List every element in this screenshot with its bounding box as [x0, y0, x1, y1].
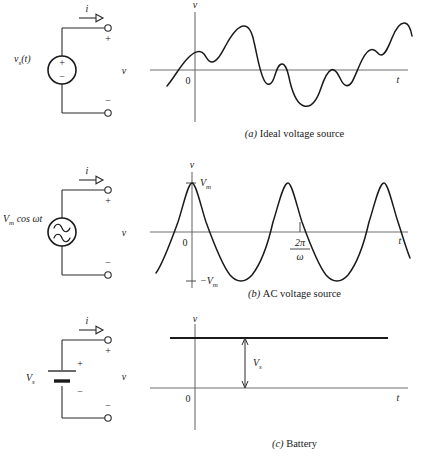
terminal-plus-sign: + [105, 195, 111, 206]
caption-c-index: (c) [272, 438, 284, 449]
terminal-plus-sign: + [105, 33, 111, 44]
caption-panel-b: (b) AC voltage source [150, 288, 439, 299]
terminal-bottom [105, 272, 111, 278]
caption-a-text: Ideal voltage source [260, 128, 345, 139]
source-label: vs(t) [14, 53, 31, 67]
terminal-minus-sign: − [105, 95, 111, 106]
caption-a-index: (a) [245, 128, 257, 139]
port-voltage-label: v [122, 371, 127, 382]
x-axis-label: t [397, 392, 400, 403]
caption-panel-a: (a) Ideal voltage source [150, 128, 439, 139]
terminal-plus-sign: + [105, 345, 111, 356]
source-label: Vs [26, 372, 35, 386]
current-label: i [86, 165, 89, 176]
current-arrow-head-icon [96, 326, 103, 334]
y-axis-label: v [193, 313, 198, 324]
source-label: Vm cos ωt [3, 213, 43, 227]
current-label: i [86, 315, 89, 326]
terminal-minus-sign: − [105, 400, 111, 411]
trough-label: −Vm [200, 275, 218, 289]
origin-label: 0 [183, 237, 188, 248]
period-numerator: 2π [295, 237, 306, 248]
source-label-sub: s [32, 378, 35, 386]
caption-panel-c: (c) Battery [150, 438, 439, 449]
dimension-label-sub: s [259, 363, 262, 371]
ac-source-circle-icon [48, 218, 76, 246]
terminal-top [105, 337, 111, 343]
caption-b-text: AC voltage source [263, 288, 341, 299]
panel-ac-voltage-source: i + − v Vm cos ωt v t 0 Vm −Vm [0, 160, 439, 310]
origin-label: 0 [186, 393, 191, 404]
source-label-arg: cos ωt [14, 213, 42, 224]
plot-ideal-voltage-waveform: v t 0 [150, 0, 439, 130]
terminal-minus-sign: − [105, 257, 111, 268]
y-axis-label: v [193, 0, 198, 10]
battery-plus-sign: + [77, 358, 83, 369]
port-voltage-label: v [122, 227, 127, 238]
panel-ideal-voltage-source: + − i + − v vs(t) [0, 0, 439, 150]
circuit-ideal-voltage-source: + − i + − v vs(t) [0, 0, 150, 130]
circuit-ac-voltage-source: i + − v Vm cos ωt [0, 160, 150, 290]
dimension-label: Vs [253, 357, 262, 371]
x-axis-label: t [397, 74, 400, 85]
plot-ac-voltage-waveform: v t 0 Vm −Vm 2π ω [150, 160, 439, 290]
source-label-arg: (t) [21, 53, 31, 65]
current-arrow-head-icon [96, 14, 103, 22]
terminal-bottom [105, 415, 111, 421]
waveform-arbitrary [167, 23, 412, 106]
plot-battery-waveform: v t 0 Vs [150, 318, 439, 448]
y-axis-label: v [190, 159, 195, 170]
source-minus-sign: − [59, 71, 65, 82]
current-arrow-head-icon [96, 176, 103, 184]
source-plus-sign: + [59, 57, 65, 68]
battery-minus-sign: − [77, 386, 83, 397]
period-denominator: ω [296, 251, 303, 262]
origin-label: 0 [186, 75, 191, 86]
port-voltage-label: v [122, 65, 127, 76]
panel-battery: + − i + − v Vs v t 0 [0, 318, 439, 467]
terminal-top [105, 187, 111, 193]
caption-c-text: Battery [286, 438, 317, 449]
x-axis-label: t [399, 235, 402, 246]
peak-label: Vm [200, 177, 211, 191]
terminal-bottom [105, 110, 111, 116]
circuit-battery: + − i + − v Vs [0, 318, 150, 448]
peak-label-sub: m [206, 183, 211, 191]
terminal-top [105, 25, 111, 31]
caption-b-index: (b) [248, 288, 260, 299]
figure-voltage-sources: + − i + − v vs(t) [0, 0, 439, 467]
current-label: i [86, 3, 89, 14]
